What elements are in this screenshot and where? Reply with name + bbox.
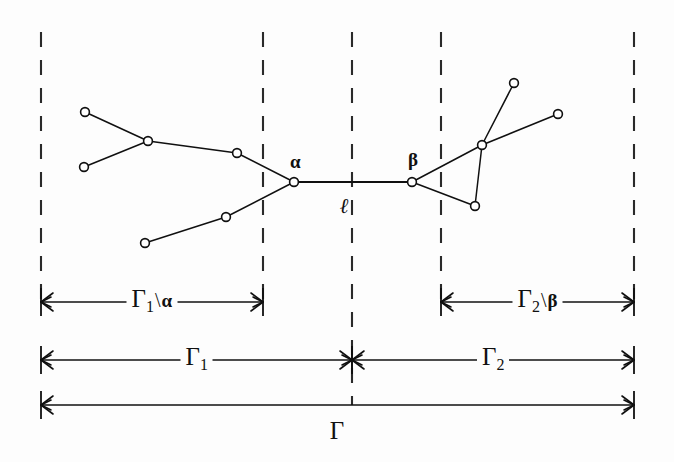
graph-node-L2 (80, 163, 89, 172)
graph-node-L1 (81, 108, 90, 117)
gamma-glyph: Γ (482, 343, 496, 370)
graph-edges (84, 83, 558, 243)
diagram-svg (0, 0, 674, 462)
graph-node-L4 (233, 149, 242, 158)
figure-canvas: α β ℓ Γ1\αΓ2\βΓ1Γ2 Γ (0, 0, 674, 462)
span-label-gamma1-minus-alpha: Γ1\α (132, 286, 173, 315)
gamma-glyph: Γ (132, 285, 146, 312)
edge-L2-L3 (84, 141, 148, 167)
graph-node-B (408, 178, 417, 187)
excluded-vertex-glyph: α (162, 290, 173, 311)
set-minus-glyph: \ (540, 289, 548, 311)
span-gamma-total (41, 391, 634, 419)
graph-node-L3 (144, 137, 153, 146)
edge-R1-R2 (475, 145, 482, 206)
edge-L1-L3 (85, 112, 148, 141)
edge-L5-L6 (145, 217, 226, 243)
graph-node-R1 (478, 141, 487, 150)
edge-L4-A (237, 153, 294, 182)
edge-B-R2 (412, 182, 475, 206)
gamma-subscript: 2 (496, 356, 504, 373)
gamma-glyph: Γ (186, 343, 200, 370)
gamma-subscript: 1 (200, 356, 208, 373)
graph-node-R3 (510, 79, 519, 88)
graph-node-A (290, 178, 299, 187)
excluded-vertex-glyph: β (548, 290, 558, 311)
edge-R1-R4 (482, 114, 558, 145)
gamma-glyph: Γ (330, 417, 344, 444)
span-label-gamma2-minus-beta: Γ2\β (518, 286, 558, 315)
graph-node-R2 (471, 202, 480, 211)
vertical-dashed-guides (41, 32, 634, 405)
graph-node-R4 (554, 110, 563, 119)
graph-node-L6 (222, 213, 231, 222)
edge-B-R1 (412, 145, 482, 182)
beta-node-label: β (408, 150, 418, 169)
gamma-subscript: 1 (146, 298, 154, 315)
alpha-node-label: α (290, 152, 301, 171)
set-minus-glyph: \ (154, 289, 162, 311)
gamma-glyph: Γ (518, 285, 532, 312)
graph-node-L5 (141, 239, 150, 248)
edge-L6-A (226, 182, 294, 217)
gamma-total-label: Γ (330, 418, 344, 443)
span-label-gamma1: Γ1 (186, 344, 208, 373)
graph-nodes (80, 79, 563, 248)
edge-R1-R3 (482, 83, 514, 145)
edge-length-label: ℓ (340, 196, 349, 217)
edge-L3-L4 (148, 141, 237, 153)
span-label-gamma2: Γ2 (482, 344, 504, 373)
gamma-subscript: 2 (532, 298, 540, 315)
